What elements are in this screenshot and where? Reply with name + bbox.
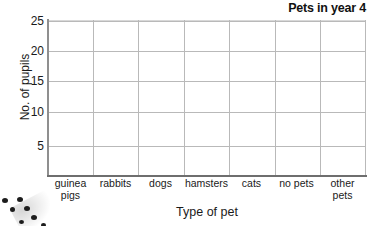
artifact-dot [17,197,23,202]
y-axis-line [47,19,49,176]
x-tick-line1: guinea [48,178,93,190]
gridline-vertical [365,20,366,175]
artifact-dot [19,220,24,224]
artifact-dot [2,198,8,203]
x-tick-label-no-pets: no pets [274,178,319,190]
gridline-vertical [138,20,139,175]
x-tick-label-dogs: dogs [138,178,183,190]
x-tick-label-hamsters: hamsters [183,178,230,190]
plot-area [48,20,366,175]
x-tick-line1: other [320,178,365,190]
worksheet-chart-page: Pets in year 4 No. of pupils 25 20 15 10… [0,0,372,226]
gridline-vertical [229,20,230,175]
x-tick-label-rabbits: rabbits [93,178,138,190]
artifact-dot [24,206,30,211]
x-tick-line1: rabbits [93,178,138,190]
x-tick-line1: cats [229,178,274,190]
chart-title: Pets in year 4 [200,1,366,15]
y-tick-label: 20 [18,45,44,57]
x-tick-line1: hamsters [183,178,230,190]
y-tick-label: 5 [18,140,44,152]
gridline-vertical [184,20,185,175]
gridline-vertical [93,20,94,175]
x-tick-label-cats: cats [229,178,274,190]
gridline-horizontal [48,81,366,82]
x-tick-line2: pets [320,190,365,202]
gridline-horizontal [48,112,366,113]
y-tick-label: 25 [18,15,44,27]
gridline-horizontal [48,51,366,52]
x-tick-label-other-pets: other pets [320,178,365,201]
x-axis-title: Type of pet [48,205,366,219]
gridline-vertical [320,20,321,175]
artifact-dot [31,215,37,220]
x-tick-line2: pigs [48,190,93,202]
gridline-horizontal [48,21,366,22]
y-tick-label: 10 [18,106,44,118]
x-tick-label-guinea-pigs: guinea pigs [48,178,93,201]
gridline-horizontal [48,146,366,147]
artifact-dot [41,223,46,226]
artifact-dot [10,207,15,212]
gridline-vertical [275,20,276,175]
y-tick-label: 15 [18,75,44,87]
x-tick-line1: no pets [274,178,319,190]
x-tick-line1: dogs [138,178,183,190]
